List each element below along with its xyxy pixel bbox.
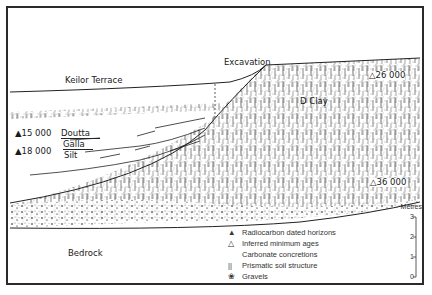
date-15000: ▲15 000 <box>15 129 51 138</box>
label-doutta: Doutta <box>61 129 100 139</box>
legend-item-gravels: ❀ Gravels <box>228 271 336 282</box>
scale-tick-0: 0 <box>410 273 414 280</box>
legend: ▲ Radiocarbon dated horizons △ Inferred … <box>228 227 336 282</box>
legend-item-carbonate: Carbonate concretions <box>228 249 336 260</box>
open-triangle-icon: △ <box>228 239 242 248</box>
legend-item-prismatic: || Prismatic soil structure <box>228 260 336 271</box>
soil-band <box>10 103 225 119</box>
label-keilor-terrace: Keilor Terrace <box>65 76 122 85</box>
date-36000: △36 000 <box>370 178 406 187</box>
scale-axis <box>394 203 422 283</box>
scale-tick-2: 2 <box>410 233 414 240</box>
label-galla: Galla <box>63 140 93 150</box>
scale-tick-1: 1 <box>410 253 414 260</box>
prismatic-structure-icon: || <box>228 261 242 270</box>
filled-triangle-icon: ▲ <box>228 228 242 237</box>
label-bedrock: Bedrock <box>68 249 103 258</box>
scale-bar: Metres 3 2 1 0 <box>394 203 422 283</box>
scale-tick-3: 3 <box>410 213 414 220</box>
date-18000: ▲18 000 <box>15 147 51 156</box>
label-d-clay: D Clay <box>300 97 328 106</box>
gravel-icon: ❀ <box>228 272 242 281</box>
legend-item-radiocarbon: ▲ Radiocarbon dated horizons <box>228 227 336 238</box>
keilor-terrace-surface <box>10 65 266 92</box>
date-26000: △26 000 <box>369 71 405 80</box>
label-silt: Silt <box>64 151 77 160</box>
label-excavation: Excavation <box>224 58 271 67</box>
legend-item-inferred: △ Inferred minimum ages <box>228 238 336 249</box>
